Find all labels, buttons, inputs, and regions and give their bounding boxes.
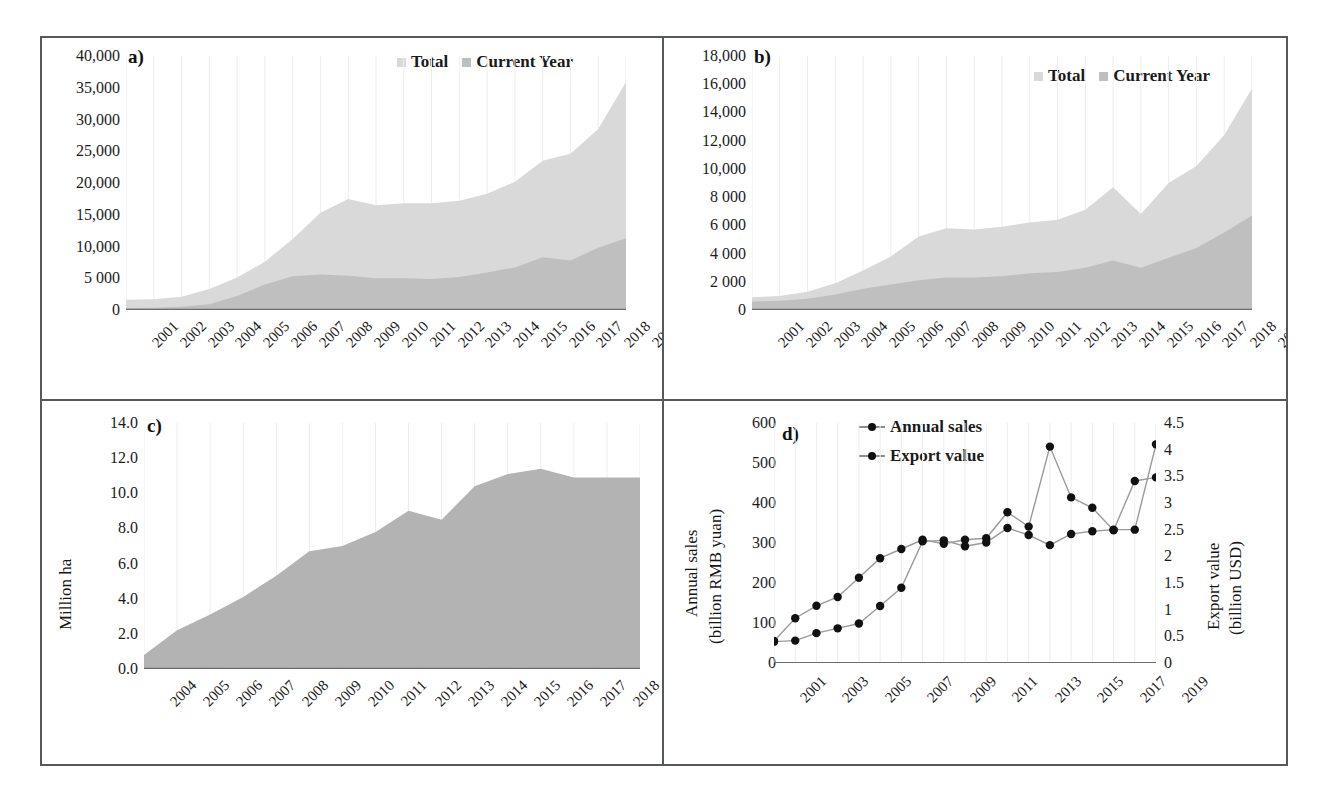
panel-a-ytick: 0 (42, 301, 120, 319)
x-axis-tick: 2006 (288, 318, 321, 351)
panel-d: d) Annual sales Export value Annual sale… (664, 401, 1286, 764)
x-axis-tick: 2017 (593, 318, 626, 351)
figure-grid: a) Total Current Year 40,000 35,000 30,0… (40, 36, 1288, 766)
x-axis-tick: 2019 (1179, 673, 1212, 706)
panel-a-ytick: 25,000 (42, 142, 120, 160)
panel-d-ytick-right: 3.5 (1164, 467, 1184, 485)
panel-d-ytick-left: 200 (726, 574, 776, 592)
x-axis-tick: 2001 (149, 318, 182, 351)
x-axis-tick: 2014 (1136, 318, 1169, 351)
x-axis-tick: 2018 (630, 677, 663, 710)
x-axis-tick: 2002 (803, 318, 836, 351)
x-axis-tick: 2006 (233, 677, 266, 710)
x-axis-tick: 2007 (266, 677, 299, 710)
panel-b-ytick: 0 (664, 301, 746, 319)
x-axis-tick: 2018 (621, 318, 654, 351)
x-axis-tick: 2009 (997, 318, 1030, 351)
panel-b-ytick: 6 000 (664, 216, 746, 234)
x-axis-tick: 2017 (1219, 318, 1252, 351)
x-axis-tick: 2004 (232, 318, 265, 351)
panel-d-ytick-right: 1 (1164, 601, 1172, 619)
x-axis-tick: 2007 (315, 318, 348, 351)
panel-c-ytick: 2.0 (78, 625, 138, 643)
x-axis-tick: 2009 (332, 677, 365, 710)
panel-d-ytick-right: 3 (1164, 494, 1172, 512)
x-axis-tick: 2014 (497, 677, 530, 710)
panel-d-y-axis-title-left-line2: (billion RMB yuan) (706, 481, 726, 671)
panel-d-ytick-right: 0 (1164, 654, 1172, 672)
x-axis-tick: 2003 (839, 673, 872, 706)
panel-c-ytick: 6.0 (78, 555, 138, 573)
panel-d-ytick-right: 2.5 (1164, 521, 1184, 539)
x-axis-tick: 2013 (1051, 673, 1084, 706)
panel-c-ytick: 12.0 (78, 449, 138, 467)
figure-page: a) Total Current Year 40,000 35,000 30,0… (0, 0, 1319, 802)
x-axis-tick: 2012 (431, 677, 464, 710)
panel-d-ytick-left: 500 (726, 454, 776, 472)
x-axis-tick: 2005 (260, 318, 293, 351)
panel-d-y-axis-title-right-line1: Export value (1204, 511, 1224, 661)
panel-b-ytick: 4 000 (664, 245, 746, 263)
panel-a-ytick: 40,000 (42, 47, 120, 65)
x-axis-tick: 2019 (1275, 318, 1286, 351)
panel-d-y-axis-title-right-line2: (billion USD) (1226, 513, 1246, 663)
x-axis-tick: 2003 (830, 318, 863, 351)
panel-d-plot (774, 423, 1156, 663)
panel-b: b) Total Current Year 18,000 16,000 14,0… (664, 38, 1286, 401)
panel-d-ytick-left: 0 (726, 654, 776, 672)
panel-d-ytick-right: 1.5 (1164, 574, 1184, 592)
x-axis-tick: 2017 (1136, 673, 1169, 706)
panel-d-ytick-right: 0.5 (1164, 627, 1184, 645)
panel-d-ytick-right: 2 (1164, 547, 1172, 565)
panel-d-ytick-left: 400 (726, 494, 776, 512)
x-axis-tick: 2018 (1247, 318, 1280, 351)
x-axis-tick: 2013 (1108, 318, 1141, 351)
x-axis-tick: 2001 (797, 673, 830, 706)
panel-c: c) Million ha 14.0 12.0 10.0 8.0 6.0 4.0… (42, 401, 664, 764)
x-axis-tick: 2019 (649, 318, 664, 351)
x-axis-tick: 2008 (969, 318, 1002, 351)
x-axis-tick: 2011 (426, 318, 459, 351)
panel-a-ytick: 5 000 (42, 269, 120, 287)
panel-a: a) Total Current Year 40,000 35,000 30,0… (42, 38, 664, 401)
panel-d-ytick-left: 300 (726, 534, 776, 552)
panel-a-ytick: 20,000 (42, 174, 120, 192)
x-axis-tick: 2007 (924, 673, 957, 706)
x-axis-tick: 2012 (454, 318, 487, 351)
panel-b-plot (752, 56, 1252, 310)
panel-a-plot (126, 56, 626, 310)
x-axis-tick: 2007 (941, 318, 974, 351)
x-axis-tick: 2013 (482, 318, 515, 351)
panel-d-ytick-right: 4 (1164, 441, 1172, 459)
panel-a-ytick: 15,000 (42, 206, 120, 224)
x-axis-tick: 2014 (510, 318, 543, 351)
panel-c-ytick: 0.0 (78, 660, 138, 678)
x-axis-tick: 2002 (177, 318, 210, 351)
panel-a-ytick: 30,000 (42, 111, 120, 129)
x-axis-tick: 2005 (882, 673, 915, 706)
x-axis-tick: 2013 (464, 677, 497, 710)
panel-a-ytick: 35,000 (42, 79, 120, 97)
panel-c-ytick: 8.0 (78, 519, 138, 537)
panel-c-y-axis-title: Million ha (56, 519, 76, 669)
x-axis-tick: 2017 (597, 677, 630, 710)
panel-c-ytick: 4.0 (78, 590, 138, 608)
x-axis-tick: 2008 (343, 318, 376, 351)
x-axis-tick: 2015 (1164, 318, 1197, 351)
x-axis-tick: 2010 (399, 318, 432, 351)
x-axis-tick: 2011 (1052, 318, 1085, 351)
x-axis-tick: 2004 (167, 677, 200, 710)
x-axis-tick: 2016 (565, 318, 598, 351)
x-axis-tick: 2006 (914, 318, 947, 351)
panel-b-ytick: 18,000 (664, 47, 746, 65)
panel-b-ytick: 2 000 (664, 273, 746, 291)
x-axis-tick: 2005 (200, 677, 233, 710)
panel-d-ytick-left: 600 (726, 414, 776, 432)
x-axis-tick: 2010 (365, 677, 398, 710)
x-axis-tick: 2003 (204, 318, 237, 351)
panel-a-ytick: 10,000 (42, 238, 120, 256)
x-axis-tick: 2009 (371, 318, 404, 351)
x-axis-tick: 2016 (1191, 318, 1224, 351)
panel-b-ytick: 8 000 (664, 188, 746, 206)
panel-b-ytick: 12,000 (664, 132, 746, 150)
